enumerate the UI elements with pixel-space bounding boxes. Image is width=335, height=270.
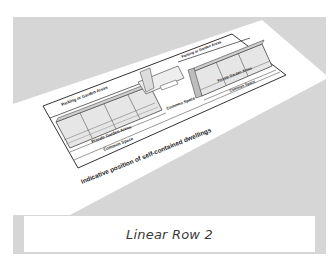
caption-box: Linear Row 2	[24, 216, 315, 252]
figure-caption: Linear Row 2	[126, 227, 213, 242]
